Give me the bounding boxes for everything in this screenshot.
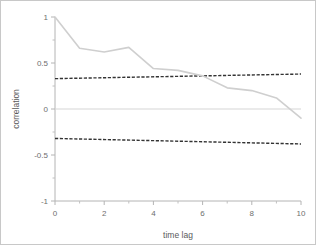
y-axis-title: correlation [11,89,21,129]
x-tick-label: 4 [151,209,156,218]
correlation-series-line [55,17,301,118]
y-tick-label: -0.5 [34,151,48,160]
y-tick-label: 1 [44,13,49,22]
y-tick-label: -1 [41,197,49,206]
y-axis-major-ticks [51,17,55,201]
y-axis-tick-labels: -1-0.500.51 [34,13,48,206]
x-tick-label: 8 [250,209,255,218]
y-tick-label: 0 [44,105,49,114]
chart-frame: -1-0.500.51 0246810 time lag correlation [0,0,316,245]
lower-confidence-band [55,138,301,144]
upper-confidence-band [55,74,301,79]
acf-chart: -1-0.500.51 0246810 time lag correlation [1,1,317,246]
y-tick-label: 0.5 [37,59,49,68]
x-axis-title: time lag [163,230,193,240]
x-tick-label: 2 [102,209,107,218]
x-tick-label: 10 [297,209,306,218]
x-axis-tick-labels: 0246810 [53,209,306,218]
x-tick-label: 0 [53,209,58,218]
x-tick-label: 6 [200,209,205,218]
